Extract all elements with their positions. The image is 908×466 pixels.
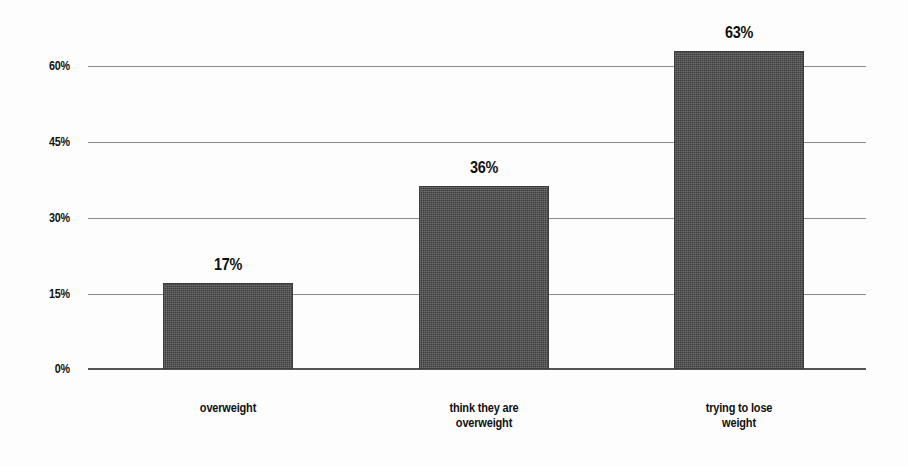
plot-area: 60% 45% 30% 15% 0% 17% overweight 36% th… xyxy=(0,0,908,466)
category-label-overweight: overweight xyxy=(158,401,299,416)
bar-trying-to-lose-weight[interactable] xyxy=(674,51,804,369)
ytick-label-15: 15% xyxy=(18,287,70,301)
bar-chart: 60% 45% 30% 15% 0% 17% overweight 36% th… xyxy=(0,0,908,466)
category-label-trying-to-lose-weight: trying to lose weight xyxy=(669,401,810,431)
bar-value-think-they-are-overweight: 36% xyxy=(426,159,543,177)
ytick-label-30: 30% xyxy=(18,211,70,225)
bar-overweight[interactable] xyxy=(163,283,293,369)
ytick-label-0: 0% xyxy=(18,362,70,376)
ytick-label-60: 60% xyxy=(18,59,70,73)
bar-think-they-are-overweight[interactable] xyxy=(419,186,549,369)
ytick-label-45: 45% xyxy=(18,135,70,149)
category-label-think-they-are-overweight: think they are overweight xyxy=(414,401,555,431)
bar-value-overweight: 17% xyxy=(170,256,287,274)
bar-value-trying-to-lose-weight: 63% xyxy=(681,24,798,42)
